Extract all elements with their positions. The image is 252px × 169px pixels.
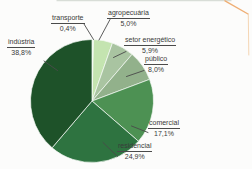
slice-value-publico: 8,0% xyxy=(144,65,168,74)
slice-label-comercial: comercial xyxy=(148,119,180,129)
slice-value-agropecuaria: 5,0% xyxy=(107,19,150,28)
slice-label-publico: público xyxy=(144,55,168,65)
slice-label-industria: indústria xyxy=(7,38,35,48)
slice-label-transporte: transporte xyxy=(51,14,85,24)
callout-setor-energetico: setor energético 5,9% xyxy=(124,36,176,55)
callout-publico: público 8,0% xyxy=(144,55,168,74)
slice-label-agropecuaria: agropecuária xyxy=(107,9,150,19)
page-corner-fold-icon xyxy=(225,1,248,14)
callout-comercial: comercial 17,1% xyxy=(148,119,180,138)
callout-residencial: residencial 24,9% xyxy=(117,142,152,161)
callout-industria: indústria 38,8% xyxy=(7,38,35,57)
callout-agropecuaria: agropecuária 5,0% xyxy=(107,9,150,28)
slice-value-industria: 38,8% xyxy=(7,48,35,57)
leader-line-0 xyxy=(84,24,94,40)
callout-transporte: transporte 0,4% xyxy=(51,14,85,33)
page-corner-fold-shadow xyxy=(248,14,249,55)
slice-value-transporte: 0,4% xyxy=(51,24,85,33)
pie-chart-figure: transporte 0,4% agropecuária 5,0% setor … xyxy=(0,0,252,169)
slice-value-residencial: 24,9% xyxy=(117,152,152,161)
slice-value-setor-energetico: 5,9% xyxy=(124,46,176,55)
slice-label-residencial: residencial xyxy=(117,142,152,152)
slice-value-comercial: 17,1% xyxy=(148,129,180,138)
slice-label-setor-energetico: setor energético xyxy=(124,36,176,46)
